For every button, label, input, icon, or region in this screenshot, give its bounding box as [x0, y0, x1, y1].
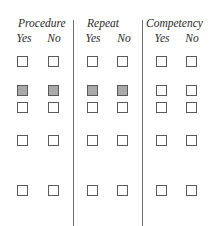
checkbox-repeat-yes-row-3[interactable] [87, 102, 98, 113]
column-divider [73, 20, 74, 226]
checkbox-repeat-no-row-3[interactable] [117, 102, 128, 113]
col-label-repeat-yes: Yes [86, 32, 101, 44]
group-title-procedure: Procedure [18, 17, 66, 29]
col-label-competency-yes: Yes [155, 32, 170, 44]
checkbox-competency-no-row-3[interactable] [186, 102, 197, 113]
col-label-repeat-no: No [117, 32, 130, 44]
checkbox-repeat-no-row-2[interactable] [117, 85, 128, 96]
checkbox-competency-no-row-5[interactable] [186, 185, 197, 196]
checkbox-competency-yes-row-4[interactable] [156, 135, 167, 146]
col-label-procedure-yes: Yes [17, 32, 32, 44]
checkbox-competency-yes-row-2[interactable] [156, 85, 167, 96]
checkbox-procedure-yes-row-5[interactable] [17, 185, 28, 196]
checkbox-procedure-no-row-4[interactable] [48, 135, 59, 146]
checkbox-competency-no-row-4[interactable] [186, 135, 197, 146]
col-label-procedure-no: No [47, 32, 60, 44]
checkbox-competency-yes-row-5[interactable] [156, 185, 167, 196]
checkbox-repeat-no-row-5[interactable] [117, 185, 128, 196]
checkbox-procedure-yes-row-4[interactable] [17, 135, 28, 146]
checkbox-procedure-no-row-3[interactable] [48, 102, 59, 113]
checkbox-procedure-yes-row-3[interactable] [17, 102, 28, 113]
group-title-competency: Competency [146, 17, 203, 29]
checkbox-repeat-yes-row-2[interactable] [87, 85, 98, 96]
checkbox-competency-yes-row-3[interactable] [156, 102, 167, 113]
group-title-repeat: Repeat [87, 17, 119, 29]
checkbox-repeat-no-row-4[interactable] [117, 135, 128, 146]
checkbox-repeat-yes-row-1[interactable] [87, 56, 98, 67]
checkbox-procedure-no-row-1[interactable] [48, 56, 59, 67]
column-divider [142, 20, 143, 226]
checkbox-competency-no-row-1[interactable] [186, 56, 197, 67]
checkbox-repeat-yes-row-5[interactable] [87, 185, 98, 196]
checkbox-procedure-no-row-2[interactable] [48, 85, 59, 96]
checkbox-competency-yes-row-1[interactable] [156, 56, 167, 67]
checkbox-repeat-no-row-1[interactable] [117, 56, 128, 67]
checkbox-procedure-yes-row-1[interactable] [17, 56, 28, 67]
checkbox-procedure-no-row-5[interactable] [48, 185, 59, 196]
checkbox-competency-no-row-2[interactable] [186, 85, 197, 96]
checkbox-procedure-yes-row-2[interactable] [17, 85, 28, 96]
col-label-competency-no: No [185, 32, 198, 44]
checkbox-repeat-yes-row-4[interactable] [87, 135, 98, 146]
